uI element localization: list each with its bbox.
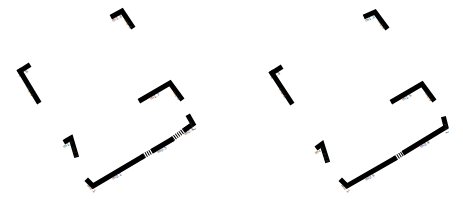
panel-left: m1.3m2.6m1.6m2.6m1.7m2.8m1.5m2.5m2.1m0.1… [18,11,198,194]
wall-segment [88,157,142,186]
floor-plan-canvas: m1.3m2.6m1.6m2.6m1.7m2.8m1.5m2.5m2.1m0.1… [0,0,463,201]
wall-label: m2.6 [322,152,330,164]
wall-segment [405,119,446,152]
wall-label: m2.5 [71,146,79,158]
panel-right: m1.3m2.6m1.3m2.6m1.5m2.3m1.5m2.6m2.1m0.5… [270,12,451,194]
wall-segment [342,159,394,186]
